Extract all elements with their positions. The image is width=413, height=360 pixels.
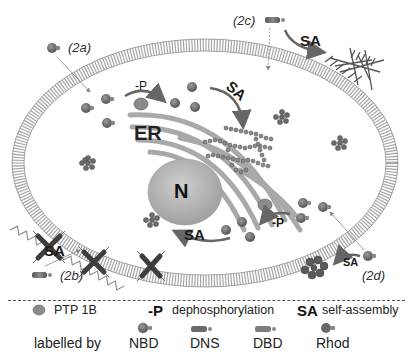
ptp1b-enzyme-icon bbox=[32, 304, 46, 316]
legend-dephos-key: -P bbox=[148, 302, 163, 319]
dephos-label-top: -P bbox=[135, 79, 147, 93]
er-label: ER bbox=[134, 122, 162, 145]
legend-ptp1b-label: PTP 1B bbox=[54, 303, 97, 317]
dbd-probe bbox=[265, 17, 280, 23]
labelled-by-label: labelled by bbox=[34, 335, 101, 351]
nbd-molecule-outside bbox=[47, 43, 60, 53]
pathway-2d-label: (2d) bbox=[362, 268, 385, 283]
legend-sa-label: self-assembly bbox=[322, 303, 398, 317]
dns-probe-icon bbox=[191, 324, 215, 334]
dbd-probe-icon bbox=[255, 324, 279, 334]
dephos-label-bottom: -P bbox=[272, 216, 284, 230]
nbd-label: NBD bbox=[129, 335, 159, 351]
sa-label-bottom: SA bbox=[184, 226, 205, 243]
pathway-2b-label: (2b) bbox=[60, 268, 83, 283]
dbd-label: DBD bbox=[253, 335, 283, 351]
rhod-probe-icon bbox=[320, 322, 338, 334]
sa-label-2d: SA bbox=[343, 256, 358, 268]
ptp1b-enzyme-bottom bbox=[258, 199, 272, 211]
rhod-label: Rhod bbox=[316, 335, 349, 351]
rhod-probe-outside bbox=[363, 251, 376, 261]
pathway-2b bbox=[3, 224, 165, 291]
legend-dephos-label: dephosphorylation bbox=[172, 303, 274, 317]
dns-probe bbox=[32, 272, 47, 278]
legend-sa-key: SA bbox=[297, 302, 318, 319]
legend-divider bbox=[8, 300, 405, 301]
nucleus-label: N bbox=[174, 180, 188, 203]
sa-label-2c: SA bbox=[300, 32, 321, 49]
ptp1b-enzyme bbox=[134, 98, 148, 110]
sa-label-2b: SA bbox=[44, 242, 65, 259]
nbd-probe-icon bbox=[137, 322, 155, 334]
pathway-2a-label: (2a) bbox=[68, 40, 91, 55]
pathway-2c-label: (2c) bbox=[233, 13, 255, 28]
dns-label: DNS bbox=[190, 335, 220, 351]
cell-membrane bbox=[12, 39, 398, 287]
